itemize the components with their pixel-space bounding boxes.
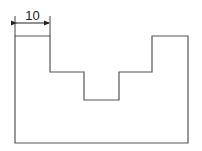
dimension-10: 10 xyxy=(15,8,50,36)
drawing-canvas: 10 xyxy=(0,0,202,151)
dimension-label: 10 xyxy=(25,8,39,23)
part-outline xyxy=(15,36,188,143)
